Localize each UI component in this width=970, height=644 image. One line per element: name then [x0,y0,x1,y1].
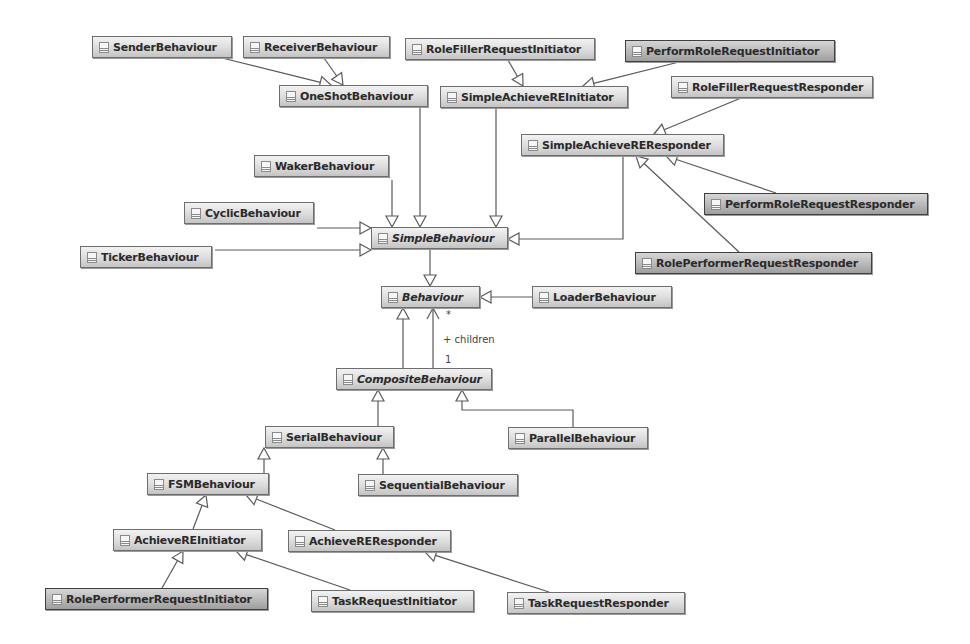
class-name: SimpleBehaviour [392,232,494,245]
class-role-performer-request-initiator[interactable]: RolePerformerRequestInitiator [45,588,268,610]
class-icon [87,252,97,263]
class-icon [378,233,388,244]
generalization-line [324,58,337,76]
generalization-arrowhead-icon [424,275,436,286]
uml-diagram-canvas: * + children 1 SenderBehaviourReceiverBe… [0,0,970,644]
generalization-arrowhead-icon [258,448,270,459]
class-name: SequentialBehaviour [379,479,505,492]
class-parallel-behaviour[interactable]: ParallelBehaviour [508,427,648,449]
generalization-line [519,156,623,239]
class-icon [632,46,642,57]
generalization-line [222,58,320,82]
class-achieve-re-responder[interactable]: AchieveREResponder [288,530,451,552]
class-task-request-responder[interactable]: TaskRequestResponder [507,592,685,614]
class-icon [514,598,524,609]
generalization-arrowhead-icon [480,291,491,303]
class-name: RoleFillerRequestInitiator [426,43,581,56]
class-icon [365,480,375,491]
class-icon [343,374,353,385]
class-icon [52,594,62,605]
class-name: RoleFillerRequestResponder [692,81,863,94]
class-name: AchieveREInitiator [134,534,246,547]
class-composite-behaviour[interactable]: CompositeBehaviour [336,368,492,390]
generalization-arrowhead-icon [360,244,371,256]
generalization-arrowhead-icon [508,233,519,245]
class-name: RolePerformerRequestInitiator [66,593,252,606]
generalization-arrowhead-icon [360,222,371,234]
class-simple-achieve-re-responder[interactable]: SimpleAchieveREResponder [521,134,724,156]
class-icon [272,432,282,443]
generalization-arrowhead-icon [386,216,398,227]
class-behaviour[interactable]: Behaviour [381,286,480,308]
class-name: Behaviour [402,291,463,304]
class-icon [678,82,688,93]
class-serial-behaviour[interactable]: SerialBehaviour [265,426,394,448]
generalization-line [246,555,350,590]
generalization-arrowhead-icon [196,495,207,507]
class-name: PerformRoleRequestInitiator [646,45,819,58]
generalization-arrowhead-icon [512,73,523,86]
class-icon [539,292,549,303]
class-name: AchieveREResponder [309,535,437,548]
class-name: CyclicBehaviour [205,207,301,220]
generalization-arrowhead-icon [397,308,409,319]
class-name: SenderBehaviour [113,41,217,54]
generalization-line [193,505,202,529]
class-sender-behaviour[interactable]: SenderBehaviour [92,36,232,58]
class-receiver-behaviour[interactable]: ReceiverBehaviour [243,36,390,58]
class-simple-behaviour[interactable]: SimpleBehaviour [371,227,508,249]
class-task-request-initiator[interactable]: TaskRequestInitiator [311,590,474,612]
class-sequential-behaviour[interactable]: SequentialBehaviour [358,474,518,496]
generalization-line [508,60,518,76]
class-loader-behaviour[interactable]: LoaderBehaviour [532,286,672,308]
class-name: SerialBehaviour [286,431,382,444]
generalization-line [256,499,335,530]
class-icon [120,535,130,546]
class-name: RolePerformerRequestResponder [656,257,858,270]
class-icon [261,161,271,172]
class-name: LoaderBehaviour [553,291,656,304]
class-icon [711,199,721,210]
generalization-line [676,160,776,193]
class-icon [191,208,201,219]
multiplicity-many-label: * [446,309,451,320]
class-fsm-behaviour[interactable]: FSMBehaviour [147,473,269,495]
class-ticker-behaviour[interactable]: TickerBehaviour [80,246,212,268]
class-icon [318,596,328,607]
class-simple-achieve-re-initiator[interactable]: SimpleAchieveREInitiator [440,86,628,108]
class-name: TickerBehaviour [101,251,199,264]
class-icon [295,536,305,547]
class-perform-role-request-responder[interactable]: PerformRoleRequestResponder [704,193,928,215]
class-name: ReceiverBehaviour [264,41,377,54]
class-icon [412,44,422,55]
generalization-arrowhead-icon [172,551,183,564]
class-perform-role-request-initiator[interactable]: PerformRoleRequestInitiator [625,40,835,62]
class-role-filler-request-responder[interactable]: RoleFillerRequestResponder [671,76,873,98]
class-icon [154,479,164,490]
generalization-line [594,62,679,83]
generalization-line [162,561,178,588]
generalization-line [462,401,573,427]
multiplicity-one-label: 1 [445,354,451,365]
class-achieve-re-initiator[interactable]: AchieveREInitiator [113,529,262,551]
class-one-shot-behaviour[interactable]: OneShotBehaviour [279,85,428,107]
class-icon [286,91,296,102]
class-name: ParallelBehaviour [529,432,635,445]
class-icon [388,292,398,303]
class-role-filler-request-initiator[interactable]: RoleFillerRequestInitiator [405,38,595,60]
class-name: PerformRoleRequestResponder [725,198,914,211]
generalization-line [435,555,549,592]
class-icon [250,42,260,53]
class-name: TaskRequestInitiator [332,595,457,608]
class-role-performer-request-responder[interactable]: RolePerformerRequestResponder [635,252,872,274]
class-name: SimpleAchieveREResponder [542,139,711,152]
class-name: CompositeBehaviour [357,373,482,386]
generalization-line [664,98,741,130]
class-name: WakerBehaviour [275,160,374,173]
class-name: TaskRequestResponder [528,597,669,610]
class-icon [99,42,109,53]
class-waker-behaviour[interactable]: WakerBehaviour [254,155,389,177]
class-cyclic-behaviour[interactable]: CyclicBehaviour [184,202,314,224]
generalization-arrowhead-icon [332,73,343,85]
generalization-arrowhead-icon [414,216,426,227]
